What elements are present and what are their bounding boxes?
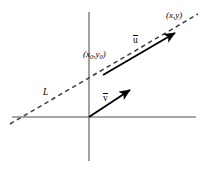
subscript-zero-x: 0 xyxy=(90,53,93,60)
vector-label-u: u xyxy=(133,35,138,46)
vector-v-text: v xyxy=(103,93,108,104)
point-label-x-y: (x,y) xyxy=(166,11,182,20)
vector-line-diagram: (x,y) (x0,y0) u v L xyxy=(0,0,207,177)
line-label-L: L xyxy=(43,88,48,98)
subscript-zero-y: 0 xyxy=(100,53,103,60)
vector-label-v: v xyxy=(103,93,108,104)
paren-close: ) xyxy=(103,49,106,59)
paren-close: ) xyxy=(179,10,182,20)
vector-u-text: u xyxy=(133,35,138,46)
diagram-canvas xyxy=(0,0,207,177)
vector-v-arrow xyxy=(89,90,130,117)
vector-u-arrow xyxy=(103,33,175,75)
var-y: y xyxy=(96,49,100,59)
point-label-x0-y0: (x0,y0) xyxy=(83,50,106,59)
